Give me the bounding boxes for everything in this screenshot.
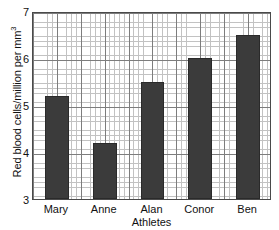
bar-conor bbox=[188, 58, 212, 199]
bar-alan bbox=[141, 82, 165, 200]
plot-area bbox=[32, 12, 271, 200]
x-axis-title: Athletes bbox=[32, 216, 271, 229]
x-axis-tick-label: Ben bbox=[237, 202, 257, 216]
y-axis-tick-label: 3 bbox=[17, 195, 29, 206]
x-axis-tick-label: Mary bbox=[44, 202, 68, 216]
bar-ben bbox=[236, 35, 260, 200]
x-axis-tick-label: Alan bbox=[140, 202, 162, 216]
y-axis-tick-labels: 76543 bbox=[15, 0, 29, 230]
bar-anne bbox=[93, 143, 117, 199]
x-axis-tick-label: Anne bbox=[91, 202, 117, 216]
y-axis-tick-label: 5 bbox=[17, 101, 29, 112]
y-axis-tick-label: 7 bbox=[17, 7, 29, 18]
y-axis-tick-label: 6 bbox=[17, 54, 29, 65]
x-axis-tick-label: Conor bbox=[184, 202, 214, 216]
y-axis-tick-label: 4 bbox=[17, 148, 29, 159]
bar-mary bbox=[45, 96, 69, 199]
bar-chart: Red blood cells/million per mm3 76543 Ma… bbox=[0, 0, 279, 230]
